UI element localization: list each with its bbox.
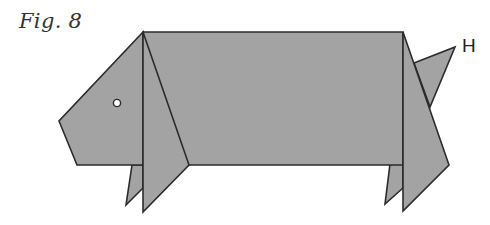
back-leg-left: [126, 165, 143, 205]
head: [59, 32, 143, 165]
origami-pig-diagram: [0, 0, 490, 225]
back-leg-right: [385, 164, 403, 204]
eye: [113, 99, 120, 106]
point-label-h: H: [462, 35, 476, 57]
